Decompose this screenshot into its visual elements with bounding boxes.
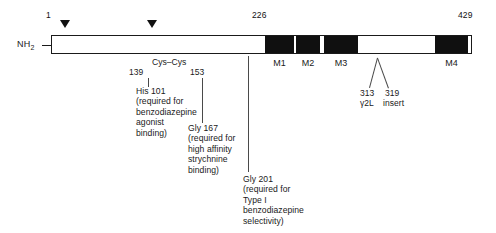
protein-backbone-bar	[51, 35, 472, 54]
insert-label: insert	[383, 98, 404, 108]
leader-line-319	[377, 58, 389, 88]
position-label-429: 429	[458, 10, 472, 20]
annotation-gly201: Gly 201 (required for Type I benzodiazep…	[243, 174, 304, 226]
position-label-313: 313	[360, 88, 374, 98]
tm-label-m2: M2	[296, 58, 320, 68]
position-label-319: 319	[385, 88, 399, 98]
transmembrane-domain-m2	[296, 36, 320, 53]
position-label-139: 139	[129, 67, 143, 77]
protein-topology-diagram: 1 226 429 NH2 M1 M2 M3 M4 Cys–Cys 139 15…	[0, 0, 496, 233]
position-label-226: 226	[252, 10, 266, 20]
position-label-1: 1	[46, 10, 51, 20]
position-label-153: 153	[190, 67, 204, 77]
glycosylation-marker-icon-1	[60, 20, 70, 28]
transmembrane-domain-m1	[265, 36, 294, 53]
leader-line-gly167	[202, 78, 203, 123]
n-terminus-tick	[42, 45, 51, 46]
gamma2l-label: γ2L	[360, 98, 374, 108]
transmembrane-domain-m4	[435, 36, 468, 53]
annotation-gly167: Gly 167 (required for high affinity stry…	[188, 123, 235, 175]
glycosylation-marker-icon-2	[147, 20, 157, 28]
tm-label-m3: M3	[324, 58, 358, 68]
leader-line-313	[369, 58, 378, 88]
leader-line-gly201	[248, 56, 249, 172]
n-terminus-label: NH2	[17, 39, 35, 51]
transmembrane-domain-m3	[324, 36, 358, 53]
tm-label-m4: M4	[435, 58, 468, 68]
disulfide-bond-label: Cys–Cys	[152, 57, 186, 67]
tm-label-m1: M1	[265, 58, 294, 68]
